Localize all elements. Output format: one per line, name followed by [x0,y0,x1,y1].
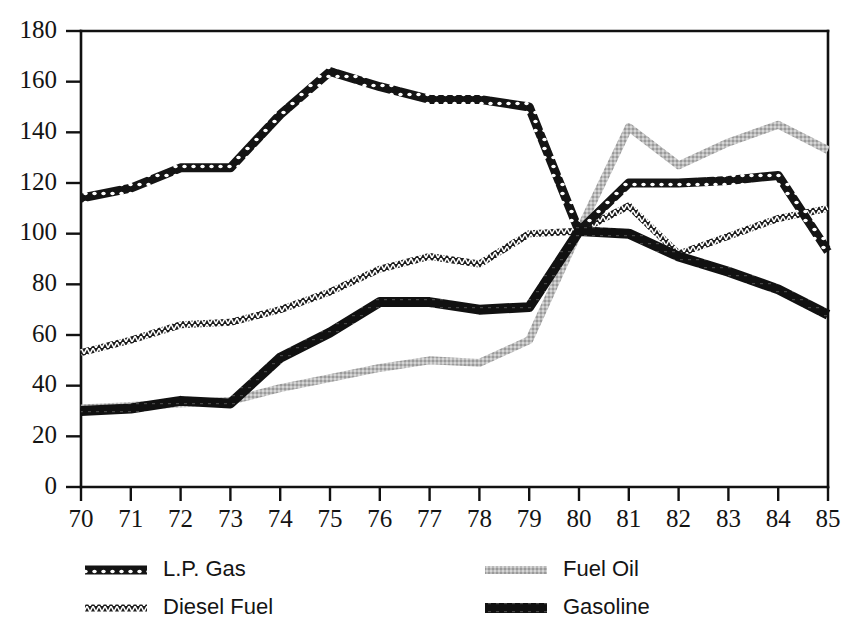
x-tick-label: 76 [367,505,392,532]
x-tick-label: 77 [417,505,442,532]
y-tick-label: 80 [32,269,57,296]
x-tick-label: 79 [517,505,542,532]
x-tick-marks [81,487,828,501]
chart-legend: L.P. GasDiesel FuelFuel OilGasoline [85,556,650,619]
x-tick-label: 71 [118,505,143,532]
data-series-group [81,72,828,411]
x-tick-label: 74 [268,505,294,532]
y-tick-label: 60 [32,320,57,347]
y-tick-marks [66,31,81,487]
y-tick-label: 20 [32,421,57,448]
legend-label-l-p-gas: L.P. Gas [163,556,246,581]
x-tick-label: 70 [69,505,94,532]
x-tick-label: 85 [816,505,841,532]
y-tick-label: 100 [20,218,58,245]
x-tick-label: 82 [666,505,691,532]
y-tick-label: 120 [20,168,58,195]
x-tick-label: 78 [467,505,492,532]
x-tick-label: 73 [218,505,243,532]
line-chart: 020406080100120140160180 707172737475767… [0,0,860,642]
legend-label-gasoline: Gasoline [563,594,650,619]
y-tick-labels: 020406080100120140160180 [20,16,58,499]
x-tick-label: 81 [616,505,641,532]
chart-svg: 020406080100120140160180 707172737475767… [0,0,860,642]
x-tick-label: 75 [318,505,343,532]
x-tick-label: 84 [766,505,792,532]
y-tick-label: 140 [20,117,58,144]
legend-label-diesel-fuel: Diesel Fuel [163,594,273,619]
x-tick-labels: 70717273747576777879808182838485 [69,505,841,532]
y-tick-label: 160 [20,66,58,93]
x-tick-label: 80 [567,505,592,532]
x-tick-label: 83 [716,505,741,532]
legend-label-fuel-oil: Fuel Oil [563,556,639,581]
y-tick-label: 0 [45,472,58,499]
y-tick-label: 40 [32,370,57,397]
series-line-diesel-fuel [81,206,828,353]
x-tick-label: 72 [168,505,193,532]
series-line-l-p-gas [81,72,828,252]
y-tick-label: 180 [20,16,58,43]
